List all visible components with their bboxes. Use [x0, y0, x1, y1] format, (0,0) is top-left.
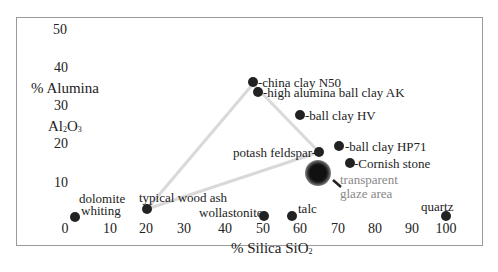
point-ball-clay-hp71 — [334, 141, 344, 151]
x-tick-60: 60 — [293, 222, 307, 236]
x-tick-40: 40 — [218, 222, 232, 236]
y-axis-title: % Alumina — [31, 81, 99, 96]
x-tick-10: 10 — [103, 222, 117, 236]
point-high-alumina-ball-clay-ak — [253, 87, 263, 97]
transparent-glaze-area-marker — [305, 160, 331, 186]
label-glaze-area: glaze area — [340, 187, 392, 201]
x-tick-80: 80 — [368, 222, 382, 236]
y-tick-40: 40 — [54, 61, 68, 75]
point-typical-wood-ash — [142, 204, 152, 214]
point-talc — [287, 211, 297, 221]
point-dolomite-whiting — [70, 212, 80, 222]
label-potash-feldspar: potash feldspar- — [233, 146, 316, 159]
y-tick-20: 20 — [54, 137, 68, 151]
label-ball-clay-hp71: -ball clay HP71 — [345, 140, 427, 153]
point-china-clay-n50 — [248, 77, 258, 87]
x-axis-title: % Silica SiO2 — [231, 241, 313, 259]
x-tick-100: 100 — [436, 222, 457, 236]
x-tick-50: 50 — [256, 222, 270, 236]
label-quartz: quartz — [421, 200, 453, 213]
y-tick-50: 50 — [53, 23, 67, 37]
y-tick-30: 30 — [54, 99, 68, 113]
label-cornish-stone: -Cornish stone — [354, 157, 430, 170]
x-tick-90: 90 — [405, 222, 419, 236]
label-wollastonite: wollastonite — [199, 206, 263, 219]
y-axis-formula: Al2O3 — [48, 119, 82, 137]
label-high-alumina-ball-clay-ak: -high alumina ball clay AK — [263, 86, 405, 99]
x-tick-70: 70 — [331, 222, 345, 236]
y-tick-10: 10 — [54, 176, 68, 190]
label-typical-wood-ash: typical wood ash — [139, 191, 227, 204]
label-whiting: whiting — [81, 204, 121, 217]
x-tick-20: 20 — [139, 222, 153, 236]
x-tick-30: 30 — [177, 222, 191, 236]
label-transparent: transparent — [340, 173, 398, 187]
label-talc: talc — [298, 202, 317, 215]
x-tick-0: 0 — [62, 222, 69, 236]
point-ball-clay-hv — [295, 110, 305, 120]
label-ball-clay-hv: -ball clay HV — [305, 109, 376, 122]
